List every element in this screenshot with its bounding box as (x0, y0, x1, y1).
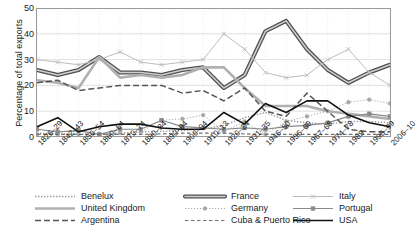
chart-figure: Percentage of total exports 01020304050 … (0, 0, 418, 228)
series-canvas (36, 8, 391, 137)
y-axis-tick: 40 (12, 30, 34, 39)
y-axis-tick: 30 (12, 56, 34, 65)
legend-label: Germany (231, 203, 268, 214)
legend-swatch-united-kingdom-icon (33, 203, 77, 214)
legend-swatch-france-icon (183, 191, 227, 202)
legend-swatch-usa-icon (291, 215, 335, 226)
legend-swatch-portugal-icon (291, 203, 335, 214)
plot-area (36, 8, 391, 137)
legend-label: Argentina (81, 215, 120, 226)
legend-label: Benelux (81, 191, 114, 202)
legend-item-argentina[interactable]: Argentina (33, 214, 145, 226)
y-axis-tick: 50 (12, 4, 34, 13)
legend-item-italy[interactable]: Italy (291, 190, 373, 202)
y-axis-tick-labels: 01020304050 (10, 0, 34, 145)
legend-item-usa[interactable]: USA (291, 214, 373, 226)
x-axis-tick-labels: 1826–291842–431850–541860–641870–741880–… (0, 139, 418, 187)
legend-column: BeneluxUnited KingdomArgentina (33, 190, 145, 226)
legend-label: Portugal (339, 203, 373, 214)
legend-item-portugal[interactable]: Portugal (291, 202, 373, 214)
legend-label: USA (339, 215, 358, 226)
y-axis-tick: 10 (12, 107, 34, 116)
legend-swatch-italy-icon (291, 191, 335, 202)
legend-swatch-germany-icon (183, 203, 227, 214)
y-axis-tick: 20 (12, 81, 34, 90)
legend-item-benelux[interactable]: Benelux (33, 190, 145, 202)
legend-swatch-benelux-icon (33, 191, 77, 202)
legend-swatch-cuba-puerto-rico-icon (183, 215, 227, 226)
legend-swatch-argentina-icon (33, 215, 77, 226)
legend-label: France (231, 191, 259, 202)
chart-legend: BeneluxUnited KingdomArgentinaFranceGerm… (33, 190, 405, 226)
legend-label: United Kingdom (81, 203, 145, 214)
legend-label: Italy (339, 191, 356, 202)
legend-item-united-kingdom[interactable]: United Kingdom (33, 202, 145, 214)
legend-column: ItalyPortugalUSA (291, 190, 373, 226)
